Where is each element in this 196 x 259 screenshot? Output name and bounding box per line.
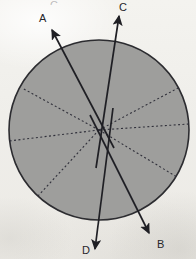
vector-d-label: D [82, 245, 90, 256]
vector-b-label: B [157, 239, 165, 250]
vector-c-label: C [119, 2, 127, 13]
vector-a-label: A [39, 13, 47, 24]
figure-canvas: ACBD C [0, 0, 196, 259]
cut-off-glyph-remnant: C [50, 0, 58, 5]
circle-vector-diagram [0, 0, 196, 259]
